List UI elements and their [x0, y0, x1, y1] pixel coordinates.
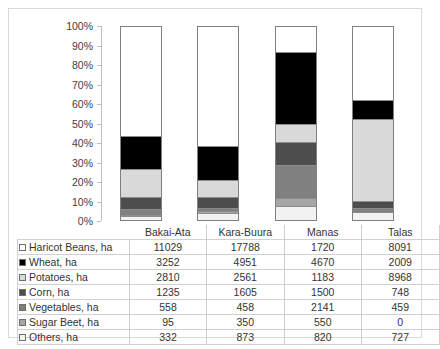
table-cell: 727 — [362, 330, 440, 345]
table-cell: 2561 — [207, 270, 285, 285]
legend-row-label: Wheat, ha — [18, 255, 130, 270]
legend-label-text: Corn, ha — [29, 286, 69, 298]
table-cell: 11029 — [130, 240, 207, 255]
bar-segment[interactable] — [276, 53, 316, 125]
bar-segment[interactable] — [198, 181, 238, 198]
table-cell: 459 — [362, 300, 440, 315]
bar-segment[interactable] — [121, 217, 161, 220]
table-cell: 332 — [130, 330, 207, 345]
table-cell: 17788 — [207, 240, 285, 255]
table-row: Haricot Beans, ha110291778817208091 — [18, 240, 440, 255]
legend-swatch-icon — [19, 274, 26, 281]
table-cell: 8091 — [362, 240, 440, 255]
table-cell: 4951 — [207, 255, 285, 270]
y-axis-tick-label: 70% — [72, 80, 93, 90]
table-cell: 558 — [130, 300, 207, 315]
table-row: Vegetables, ha5584582141459 — [18, 300, 440, 315]
legend-swatch-icon — [19, 289, 26, 296]
y-axis-tick-label: 50% — [72, 119, 93, 129]
legend-swatch-icon — [19, 304, 26, 311]
plot-wrapper: 100%90%80%70%60%50%40%30%20%10%0% — [9, 9, 423, 225]
legend-swatch-icon — [19, 334, 26, 341]
bar-slot — [102, 26, 180, 221]
bar-segment[interactable] — [276, 207, 316, 220]
bar-segment[interactable] — [353, 27, 393, 101]
legend-label-text: Haricot Beans, ha — [29, 241, 112, 253]
stacked-bar[interactable] — [197, 26, 239, 221]
table-cell: 1183 — [284, 270, 362, 285]
table-cell: 2141 — [284, 300, 362, 315]
bar-slot — [335, 26, 413, 221]
table-cell: 4670 — [284, 255, 362, 270]
chart-frame: 100%90%80%70%60%50%40%30%20%10%0% Bakai-… — [8, 8, 422, 338]
legend-swatch-icon — [19, 259, 26, 266]
legend-row-label: Haricot Beans, ha — [18, 240, 130, 255]
table-row: Others, ha332873820727 — [18, 330, 440, 345]
table-cell: 8968 — [362, 270, 440, 285]
table-column-header: Kara-Buura — [207, 225, 285, 240]
y-axis-tick-mark — [97, 221, 101, 222]
legend-row-label: Potatoes, ha — [18, 270, 130, 285]
bar-segment[interactable] — [353, 101, 393, 119]
y-axis-tick-label: 100% — [66, 21, 93, 31]
table-cell: 0 — [362, 315, 440, 330]
bar-segment[interactable] — [276, 199, 316, 207]
bar-segment[interactable] — [276, 125, 316, 143]
stacked-bar[interactable] — [120, 26, 162, 221]
table-cell: 820 — [284, 330, 362, 345]
legend-label-text: Wheat, ha — [29, 256, 77, 268]
legend-label-text: Sugar Beet, ha — [29, 316, 99, 328]
table-cell: 748 — [362, 285, 440, 300]
table-row: Wheat, ha3252495146702009 — [18, 255, 440, 270]
table-cell: 458 — [207, 300, 285, 315]
table-row: Sugar Beet, ha953505500 — [18, 315, 440, 330]
legend-label-text: Others, ha — [29, 331, 78, 343]
bar-segment[interactable] — [276, 166, 316, 199]
y-axis-tick-label: 30% — [72, 158, 93, 168]
bar-segment[interactable] — [198, 214, 238, 220]
stacked-bar[interactable] — [352, 26, 394, 221]
bar-segment[interactable] — [353, 202, 393, 209]
bar-segment[interactable] — [121, 137, 161, 170]
legend-label-text: Vegetables, ha — [29, 301, 98, 313]
bar-segment[interactable] — [353, 120, 393, 202]
table-cell: 1235 — [130, 285, 207, 300]
table-cell: 550 — [284, 315, 362, 330]
table-cell: 95 — [130, 315, 207, 330]
table-cell: 1500 — [284, 285, 362, 300]
table-cell: 2009 — [362, 255, 440, 270]
y-axis-tick-label: 40% — [72, 138, 93, 148]
legend-swatch-icon — [19, 319, 26, 326]
data-table-body: Bakai-AtaKara-BuuraManasTalasHaricot Bea… — [18, 225, 440, 345]
table-row: Potatoes, ha2810256111838968 — [18, 270, 440, 285]
bar-segment[interactable] — [276, 27, 316, 53]
stacked-bar[interactable] — [275, 26, 317, 221]
bar-segment[interactable] — [121, 170, 161, 198]
y-axis-tick-label: 80% — [72, 60, 93, 70]
bar-segment[interactable] — [276, 143, 316, 166]
bar-segment[interactable] — [198, 147, 238, 180]
bar-segment[interactable] — [121, 27, 161, 137]
legend-label-text: Potatoes, ha — [29, 271, 88, 283]
y-axis-tick-label: 90% — [72, 41, 93, 51]
bar-segment[interactable] — [198, 27, 238, 147]
bar-slot — [180, 26, 258, 221]
table-column-header: Manas — [284, 225, 362, 240]
y-axis-tick-label: 20% — [72, 177, 93, 187]
legend-row-label: Vegetables, ha — [18, 300, 130, 315]
bar-segment[interactable] — [121, 198, 161, 210]
table-column-header: Talas — [362, 225, 440, 240]
table-cell: 873 — [207, 330, 285, 345]
legend-row-label: Others, ha — [18, 330, 130, 345]
legend-row-label: Sugar Beet, ha — [18, 315, 130, 330]
table-cell: 3252 — [130, 255, 207, 270]
table-column-header: Bakai-Ata — [130, 225, 207, 240]
table-row: Corn, ha123516051500748 — [18, 285, 440, 300]
bar-segment[interactable] — [198, 198, 238, 209]
legend-row-label: Corn, ha — [18, 285, 130, 300]
data-table: Bakai-AtaKara-BuuraManasTalasHaricot Bea… — [17, 225, 440, 345]
table-cell: 350 — [207, 315, 285, 330]
y-axis: 100%90%80%70%60%50%40%30%20%10%0% — [49, 23, 97, 217]
bar-segment[interactable] — [353, 213, 393, 220]
table-cell: 1605 — [207, 285, 285, 300]
